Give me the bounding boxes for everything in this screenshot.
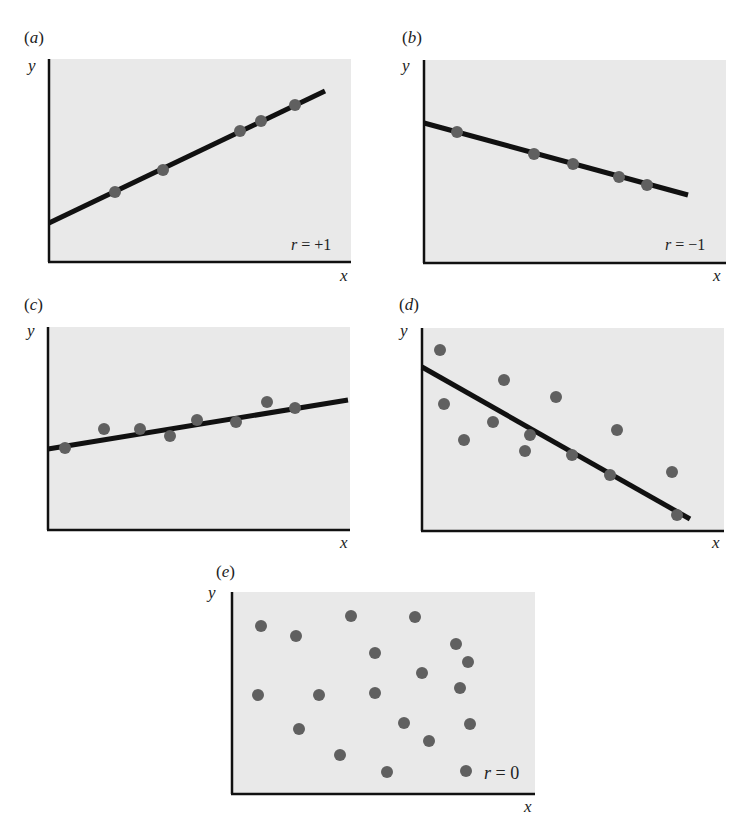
panel-a-y-axis-label: y bbox=[28, 56, 36, 76]
panel-e-label: (e) bbox=[216, 562, 235, 582]
data-point bbox=[230, 416, 242, 428]
panel-b: (b) y x r = −1 bbox=[372, 0, 744, 290]
data-point bbox=[157, 164, 169, 176]
data-point bbox=[462, 656, 474, 668]
plot-background bbox=[422, 328, 724, 530]
plot-background bbox=[49, 59, 351, 261]
data-point bbox=[290, 630, 302, 642]
scatter-plot bbox=[46, 327, 352, 533]
data-point bbox=[59, 442, 71, 454]
panel-e-letter: e bbox=[222, 562, 230, 581]
data-point bbox=[134, 423, 146, 435]
panel-b-plot bbox=[424, 60, 726, 262]
panel-d: (d) y x bbox=[372, 280, 744, 560]
data-point bbox=[423, 735, 435, 747]
data-point bbox=[458, 434, 470, 446]
panel-d-label: (d) bbox=[399, 295, 419, 315]
data-point bbox=[498, 374, 510, 386]
data-point bbox=[666, 466, 678, 478]
data-point bbox=[313, 689, 325, 701]
data-point bbox=[398, 717, 410, 729]
panel-c-x-axis-label: x bbox=[340, 533, 348, 553]
panel-c-y-axis-label: y bbox=[27, 321, 35, 341]
data-point bbox=[487, 416, 499, 428]
data-point bbox=[567, 158, 579, 170]
data-point bbox=[109, 186, 121, 198]
data-point bbox=[528, 148, 540, 160]
data-point bbox=[381, 766, 393, 778]
scatter-plot bbox=[420, 328, 726, 534]
panel-e-r-annotation: r = 0 bbox=[484, 763, 519, 784]
data-point bbox=[641, 179, 653, 191]
data-point bbox=[604, 469, 616, 481]
panel-e: (e) y x r = 0 bbox=[190, 555, 560, 836]
panel-a: (a) y x r = +1 bbox=[0, 0, 372, 290]
data-point bbox=[434, 344, 446, 356]
panel-b-y-axis-label: y bbox=[402, 56, 410, 76]
data-point bbox=[334, 749, 346, 761]
data-point bbox=[611, 424, 623, 436]
data-point bbox=[613, 171, 625, 183]
data-point bbox=[416, 667, 428, 679]
data-point bbox=[550, 391, 562, 403]
data-point bbox=[460, 765, 472, 777]
data-point bbox=[98, 423, 110, 435]
data-point bbox=[454, 682, 466, 694]
panel-d-plot bbox=[422, 328, 724, 530]
data-point bbox=[191, 414, 203, 426]
data-point bbox=[293, 723, 305, 735]
r-symbol: r bbox=[484, 763, 491, 783]
panel-c-label: (c) bbox=[24, 295, 43, 315]
data-point bbox=[566, 449, 578, 461]
panel-b-r-annotation: r = −1 bbox=[665, 236, 705, 254]
data-point bbox=[345, 610, 357, 622]
data-point bbox=[369, 687, 381, 699]
r-value: = 0 bbox=[496, 763, 520, 783]
panel-a-label: (a) bbox=[24, 28, 44, 48]
panel-a-plot bbox=[49, 59, 351, 261]
data-point bbox=[519, 445, 531, 457]
plot-background bbox=[48, 327, 350, 529]
panel-d-letter: d bbox=[405, 295, 414, 314]
r-value: = +1 bbox=[301, 236, 331, 253]
panel-e-x-axis-label: x bbox=[524, 797, 532, 817]
r-symbol: r bbox=[665, 236, 671, 253]
data-point bbox=[451, 126, 463, 138]
panel-b-label: (b) bbox=[402, 28, 422, 48]
panel-c-plot bbox=[48, 327, 350, 529]
data-point bbox=[450, 638, 462, 650]
data-point bbox=[438, 398, 450, 410]
panel-a-letter: a bbox=[30, 28, 39, 47]
data-point bbox=[289, 99, 301, 111]
panel-a-r-annotation: r = +1 bbox=[291, 236, 331, 254]
data-point bbox=[255, 620, 267, 632]
data-point bbox=[255, 115, 267, 127]
data-point bbox=[234, 125, 246, 137]
data-point bbox=[289, 402, 301, 414]
data-point bbox=[671, 509, 683, 521]
panel-d-x-axis-label: x bbox=[712, 533, 720, 553]
data-point bbox=[261, 396, 273, 408]
data-point bbox=[464, 718, 476, 730]
r-symbol: r bbox=[291, 236, 297, 253]
data-point bbox=[369, 647, 381, 659]
data-point bbox=[252, 689, 264, 701]
panel-c: (c) y x bbox=[0, 280, 372, 560]
panel-c-letter: c bbox=[30, 295, 38, 314]
panel-e-y-axis-label: y bbox=[208, 583, 216, 603]
data-point bbox=[164, 430, 176, 442]
data-point bbox=[524, 429, 536, 441]
r-value: = −1 bbox=[675, 236, 705, 253]
data-point bbox=[409, 611, 421, 623]
scatter-plot bbox=[47, 59, 353, 265]
panel-b-letter: b bbox=[408, 28, 417, 47]
panel-d-y-axis-label: y bbox=[400, 321, 408, 341]
